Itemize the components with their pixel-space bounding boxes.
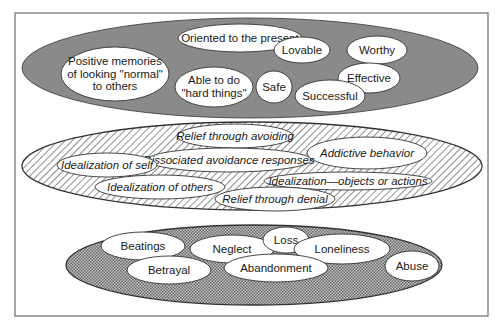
bubble-label: Neglect xyxy=(213,243,253,255)
bubble-label: of looking "normal" xyxy=(67,68,163,80)
bubble-label: Dissociated avoidance responses xyxy=(143,154,315,166)
concept-bubble: Abandonment xyxy=(224,254,328,282)
concept-bubble: Able to do"hard things" xyxy=(175,67,253,107)
concept-bubble: Betrayal xyxy=(127,256,211,284)
positive-self-layer: Oriented to the presentLovableWorthyPosi… xyxy=(22,18,478,118)
bubble-label: Addictive behavior xyxy=(319,147,415,159)
bubble-label: Loss xyxy=(274,234,299,246)
diagram-canvas: Oriented to the presentLovableWorthyPosi… xyxy=(0,0,501,330)
bubble-label: Beatings xyxy=(121,240,166,252)
bubble-label: Idealization—objects or actions xyxy=(268,175,427,187)
avoidance-layer: Relief through avoidingAddictive behavio… xyxy=(22,122,482,211)
bubble-label: Safe xyxy=(262,81,286,93)
bubble-label: Relief through denial xyxy=(222,193,328,205)
bubble-label: Worthy xyxy=(359,44,395,56)
concept-bubble: Dissociated avoidance responses xyxy=(143,148,315,172)
concept-bubble: Lovable xyxy=(274,37,330,63)
bubble-label: Positive memories xyxy=(68,55,162,67)
bubble-label: Idealization of others xyxy=(107,181,213,193)
concept-bubble: Relief through avoiding xyxy=(176,124,294,148)
bubble-label: to others xyxy=(93,80,138,92)
bubble-label: Able to do xyxy=(188,74,240,86)
layers-group: Oriented to the presentLovableWorthyPosi… xyxy=(22,18,482,305)
concept-bubble: Successful xyxy=(295,80,365,112)
concept-bubble: Addictive behavior xyxy=(307,137,427,169)
bubble-label: Abandonment xyxy=(240,262,312,274)
concept-bubble: Safe xyxy=(256,71,292,103)
concept-bubble: Positive memoriesof looking "normal"to o… xyxy=(61,47,169,101)
concept-bubble: Abuse xyxy=(385,251,439,281)
bubble-label: Lovable xyxy=(282,44,322,56)
trauma-layer: BeatingsBetrayalNeglectLossLonelinessAba… xyxy=(66,225,442,305)
bubble-label: "hard things" xyxy=(181,87,246,99)
bubble-label: Betrayal xyxy=(148,264,190,276)
bubble-label: Successful xyxy=(302,90,358,102)
concept-bubble: Idealization of self xyxy=(57,153,157,177)
bubble-label: Effective xyxy=(347,72,391,84)
bubble-label: Relief through avoiding xyxy=(176,130,294,142)
concept-bubble: Idealization of others xyxy=(95,175,225,199)
concept-bubble: Worthy xyxy=(347,36,407,64)
bubble-label: Idealization of self xyxy=(61,159,155,171)
bubble-label: Loneliness xyxy=(315,243,370,255)
concept-bubble: Relief through denial xyxy=(215,187,335,211)
bubble-label: Abuse xyxy=(396,260,429,272)
